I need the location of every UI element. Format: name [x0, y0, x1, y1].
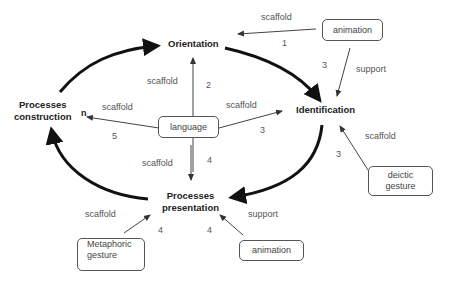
edge-number: 3	[322, 60, 327, 71]
stage-identification: Identification	[296, 104, 355, 116]
box-deictic-line2: gesture	[385, 181, 415, 192]
cycle-arrow-identification-to-presentation	[234, 125, 322, 197]
edge-number: 4	[158, 225, 163, 236]
edge-label: scaffold	[147, 76, 178, 87]
box-deictic-gesture: deictic gesture	[368, 166, 433, 196]
arrow-animation-to-identification	[337, 48, 350, 96]
box-metaphoric-gesture: Metaphoric gesture	[77, 238, 145, 271]
box-metaphoric-line2: gesture	[87, 250, 117, 261]
cycle-arrow-presentation-to-construction	[52, 132, 148, 199]
box-animation-top: animation	[322, 19, 383, 41]
box-deictic-line1: deictic	[388, 170, 414, 181]
diagram-arrows	[0, 0, 449, 286]
arrow-metaphoric-to-presentation	[124, 215, 150, 233]
edge-label: scaffold	[365, 131, 396, 142]
arrow-deictic-to-identification	[340, 126, 368, 170]
stage-construction-line2: construction	[14, 111, 72, 123]
edge-number: 4	[207, 155, 212, 166]
edge-number: 5	[112, 131, 117, 142]
construction-target-marker: n	[81, 107, 87, 119]
edge-label: scaffold	[261, 12, 292, 23]
edge-label: scaffold	[142, 158, 173, 169]
diagram-canvas: Orientation Identification Processes pre…	[0, 0, 449, 286]
stage-construction-line1: Processes	[14, 99, 72, 111]
stage-construction: Processes construction	[14, 99, 72, 123]
stage-orientation: Orientation	[168, 38, 219, 50]
edge-number: 3	[260, 125, 265, 136]
edge-number: 3	[336, 149, 341, 160]
stage-presentation-line1: Processes	[162, 190, 219, 202]
edge-label: scaffold	[102, 102, 133, 113]
edge-label: support	[248, 209, 278, 220]
edge-number: 2	[206, 80, 211, 91]
edge-number: 4	[207, 225, 212, 236]
cycle-arrow-construction-to-orientation	[60, 46, 155, 92]
box-language: language	[158, 116, 219, 138]
box-metaphoric-line1: Metaphoric	[87, 239, 132, 250]
box-animation-bottom: animation	[239, 240, 304, 261]
edge-label: scaffold	[85, 209, 116, 220]
arrow-language-to-construction	[87, 117, 159, 128]
edge-label: scaffold	[226, 100, 257, 111]
edge-label: support	[356, 64, 386, 75]
edge-number: 1	[282, 38, 287, 49]
stage-presentation: Processes presentation	[162, 190, 219, 214]
arrow-animation-to-orientation	[238, 29, 316, 34]
arrow-language-to-identification	[219, 111, 282, 128]
stage-presentation-line2: presentation	[162, 202, 219, 214]
cycle-arrow-orientation-to-identification	[225, 48, 318, 98]
arrow-animation-bottom-to-presentation	[220, 215, 243, 235]
